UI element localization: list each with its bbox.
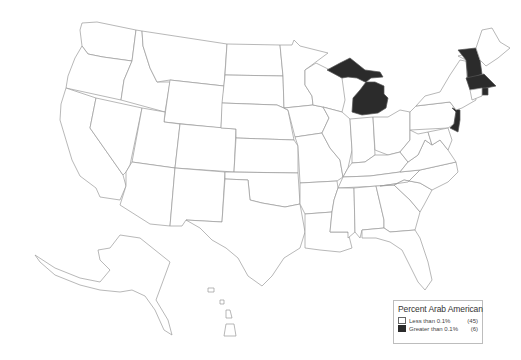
legend-item-low: Less than 0.1% (45) xyxy=(398,317,478,324)
state-maine xyxy=(476,28,510,66)
state-kansas xyxy=(234,138,298,173)
legend-swatch-white-icon xyxy=(398,317,406,324)
state-north-dakota xyxy=(225,44,283,76)
state-arizona xyxy=(120,162,175,226)
legend-label: Less than 0.1% xyxy=(409,318,463,324)
map-legend: Percent Arab American Less than 0.1% (45… xyxy=(393,300,483,344)
state-connecticut xyxy=(470,88,482,100)
state-alaska xyxy=(35,235,172,335)
state-hawaii xyxy=(208,288,236,336)
legend-swatch-dark-icon xyxy=(398,325,406,332)
state-wyoming xyxy=(164,80,224,128)
legend-count: (45) xyxy=(467,318,478,324)
legend-label: Greater than 0.1% xyxy=(409,326,467,332)
state-montana xyxy=(142,31,227,86)
legend-title: Percent Arab American xyxy=(398,304,478,314)
state-rhode-island xyxy=(482,88,488,95)
legend-count: (6) xyxy=(471,326,478,332)
state-florida xyxy=(362,228,432,290)
legend-item-high: Greater than 0.1% (6) xyxy=(398,325,478,332)
state-colorado xyxy=(175,124,236,172)
state-indiana xyxy=(350,117,375,163)
state-new-mexico xyxy=(170,168,225,226)
